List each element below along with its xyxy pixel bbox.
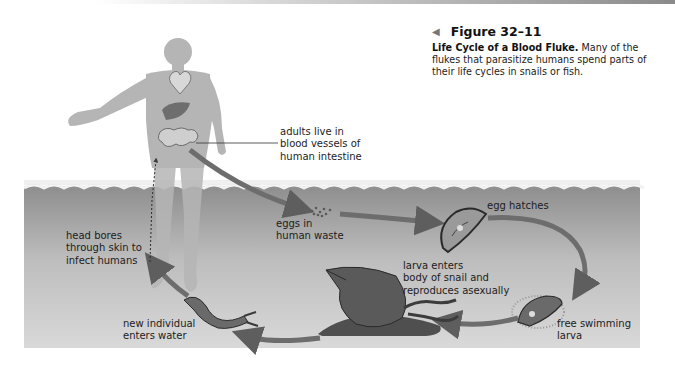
label-adults: adults live inblood vessels ofhuman inte… xyxy=(280,126,362,163)
label-eggs: eggs inhuman waste xyxy=(276,218,344,243)
label-new-individual: new individualenters water xyxy=(123,318,195,343)
label-egg-hatches: egg hatches xyxy=(487,200,549,212)
label-larva-enters-snail: larva entersbody of snail andreproduces … xyxy=(403,260,509,297)
label-head-bores: head boresthrough skin toinfect humans xyxy=(66,230,142,267)
label-free-swimming-larva: free swimminglarva xyxy=(557,318,631,343)
